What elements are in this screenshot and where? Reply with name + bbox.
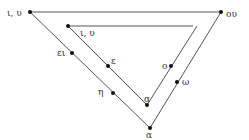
inner-point-epsilon (106, 64, 110, 68)
label-outer-bottom: α (146, 130, 152, 140)
label-inner-omicron: ο (162, 61, 167, 71)
outer-vertex-top-right (219, 10, 223, 14)
label-inner-top-left: ι, υ (80, 28, 95, 38)
label-outer-top-left: ι, υ (7, 8, 22, 18)
outer-point-ei (70, 51, 74, 55)
vowel-triangle-diagram: ι, υ ου α ει η ω ι, υ α ε ο (0, 0, 249, 140)
label-inner-bottom: α (144, 94, 150, 104)
label-inner-epsilon: ε (111, 56, 116, 66)
label-outer-omega: ω (182, 77, 189, 87)
inner-vertex-top-left (66, 24, 70, 28)
outer-point-eta (111, 91, 115, 95)
inner-point-omicron (169, 64, 173, 68)
outer-triangle (30, 12, 221, 128)
label-outer-eta: η (98, 87, 103, 97)
label-outer-ei: ει (57, 48, 66, 58)
outer-vertex-top-left (28, 10, 32, 14)
label-outer-top-right: ου (226, 9, 237, 19)
outer-point-omega (175, 80, 179, 84)
